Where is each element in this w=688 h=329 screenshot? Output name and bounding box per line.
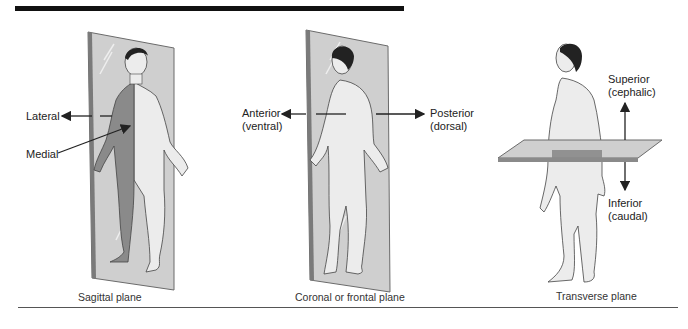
label-anterior: Anterior — [242, 107, 281, 120]
label-posterior: Posterior — [430, 107, 474, 120]
anatomical-planes-illustration — [0, 0, 688, 329]
coronal-plane-figure — [282, 30, 424, 292]
label-inferior: Inferior — [608, 197, 642, 210]
caption-transverse: Transverse plane — [556, 290, 637, 302]
label-inferior-alt: (caudal) — [608, 210, 648, 223]
label-superior: Superior — [608, 73, 650, 86]
sagittal-plane-figure — [58, 32, 188, 290]
label-medial: Medial — [26, 148, 58, 161]
caption-sagittal: Sagittal plane — [78, 291, 142, 303]
label-anterior-alt: (ventral) — [242, 120, 282, 133]
label-superior-alt: (cephalic) — [608, 86, 656, 99]
bottom-rule — [18, 307, 678, 308]
label-lateral: Lateral — [26, 110, 60, 123]
label-posterior-alt: (dorsal) — [430, 120, 467, 133]
caption-coronal: Coronal or frontal plane — [295, 291, 405, 303]
